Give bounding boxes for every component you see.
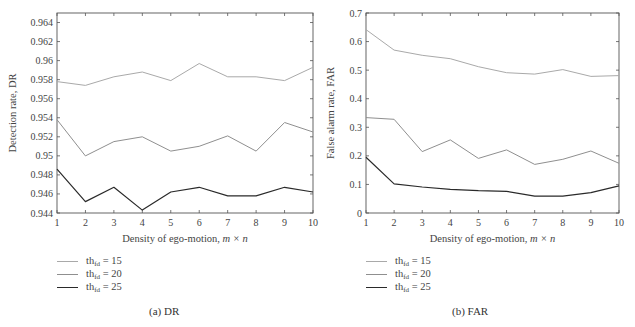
y-tick-label: 0.1 — [350, 179, 363, 190]
legend-line-swatch — [366, 274, 387, 275]
legend-item: thfd = 20 — [366, 268, 431, 281]
legend-label: thfd = 25 — [86, 281, 122, 294]
y-tick-label: 0.954 — [31, 112, 54, 123]
legend-item: thfd = 15 — [366, 255, 431, 268]
x-tick-label: 1 — [364, 217, 369, 228]
x-tick-label: 5 — [476, 217, 481, 228]
y-tick-label: 0.944 — [31, 208, 54, 219]
legend-label: thfd = 20 — [86, 268, 122, 281]
x-tick-label: 6 — [197, 217, 202, 228]
legend-label: thfd = 15 — [395, 255, 431, 268]
y-tick-label: 0.96 — [36, 55, 54, 66]
legend-label: thfd = 15 — [86, 255, 122, 268]
x-tick-label: 7 — [225, 217, 230, 228]
y-tick-label: 0.7 — [350, 8, 363, 19]
x-tick-label: 5 — [168, 217, 173, 228]
y-tick-label: 0.4 — [350, 93, 363, 104]
y-tick-label: 0.946 — [31, 188, 54, 199]
x-tick-label: 10 — [308, 217, 318, 228]
legend-line-swatch — [57, 261, 78, 262]
y-tick-label: 0.958 — [31, 74, 54, 85]
series-line-2 — [366, 118, 619, 165]
legend-line-swatch — [366, 287, 387, 288]
x-tick-label: 9 — [282, 217, 287, 228]
plot-frame — [57, 13, 313, 213]
legend-line-swatch — [57, 274, 78, 275]
x-axis-title: Density of ego-motion, m × n — [430, 233, 556, 244]
legend-item: thfd = 25 — [57, 281, 122, 294]
chart-panel-b: 00.10.20.30.40.50.60.712345678910Density… — [325, 8, 624, 245]
series-line-2 — [57, 120, 313, 156]
x-tick-label: 9 — [588, 217, 593, 228]
legend-label: thfd = 25 — [395, 281, 431, 294]
y-tick-label: 0.5 — [350, 65, 363, 76]
series-line-3 — [57, 169, 313, 210]
series-line-3 — [366, 157, 619, 196]
x-tick-label: 10 — [614, 217, 624, 228]
plot-frame — [366, 13, 619, 213]
y-tick-label: 0.3 — [350, 122, 363, 133]
x-tick-label: 4 — [140, 217, 145, 228]
y-tick-label: 0.95 — [36, 150, 54, 161]
caption-dr: (a) DR — [149, 305, 179, 317]
y-tick-label: 0.962 — [31, 36, 54, 47]
legend-line-swatch — [57, 287, 78, 288]
y-axis-title: Detection rate, DR — [7, 73, 18, 152]
x-tick-label: 2 — [392, 217, 397, 228]
x-tick-label: 8 — [560, 217, 565, 228]
x-tick-label: 4 — [448, 217, 453, 228]
x-tick-label: 8 — [254, 217, 259, 228]
caption-far: (b) FAR — [452, 305, 488, 317]
y-tick-label: 0.964 — [31, 17, 54, 28]
x-tick-label: 6 — [504, 217, 509, 228]
legend-item: thfd = 20 — [57, 268, 122, 281]
x-tick-label: 3 — [111, 217, 116, 228]
series-line-1 — [366, 30, 619, 77]
series-line-1 — [57, 64, 313, 86]
legend-dr: thfd = 15thfd = 20thfd = 25 — [57, 255, 122, 294]
x-axis-title: Density of ego-motion, m × n — [122, 233, 248, 244]
y-tick-label: 0.948 — [31, 169, 54, 180]
x-tick-label: 3 — [420, 217, 425, 228]
y-tick-label: 0.6 — [350, 36, 363, 47]
legend-line-swatch — [366, 261, 387, 262]
legend-item: thfd = 25 — [366, 281, 431, 294]
x-tick-label: 2 — [83, 217, 88, 228]
legend-item: thfd = 15 — [57, 255, 122, 268]
x-tick-label: 1 — [55, 217, 60, 228]
y-tick-label: 0.952 — [31, 131, 54, 142]
y-tick-label: 0.2 — [350, 150, 363, 161]
legend-far: thfd = 15thfd = 20thfd = 25 — [366, 255, 431, 294]
chart-panel-a: 0.9440.9460.9480.950.9520.9540.9560.9580… — [7, 13, 318, 244]
y-tick-label: 0 — [357, 208, 362, 219]
y-axis-title: False alarm rate, FAR — [325, 67, 336, 159]
x-tick-label: 7 — [532, 217, 537, 228]
legend-label: thfd = 20 — [395, 268, 431, 281]
y-tick-label: 0.956 — [31, 93, 54, 104]
